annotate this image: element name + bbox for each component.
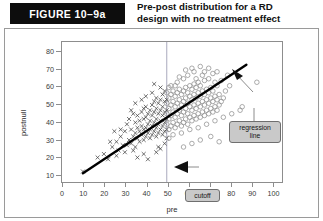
y-axis-label: postnull [19, 110, 28, 136]
data-point [206, 66, 211, 71]
data-point [215, 108, 220, 113]
data-point [181, 145, 186, 150]
x-tick-label: 40 [143, 189, 151, 198]
data-point [123, 129, 127, 133]
data-point [154, 107, 158, 111]
data-point [148, 136, 152, 140]
data-point [208, 134, 213, 139]
data-point [238, 108, 243, 113]
data-point [144, 94, 148, 98]
x-tick-label: 30 [121, 189, 129, 198]
data-point [198, 138, 203, 143]
data-point [215, 69, 220, 74]
y-tick-label: 30 [46, 135, 54, 144]
data-point [138, 129, 142, 133]
data-point [146, 157, 150, 161]
data-point [144, 126, 148, 130]
y-tick [56, 122, 62, 123]
data-point [227, 83, 232, 88]
data-point [127, 117, 131, 121]
data-point [135, 156, 139, 160]
regression-line-callout: regression line [229, 121, 281, 143]
figure-number-badge: FIGURE 10–9a [10, 3, 125, 24]
y-tick-label: 60 [46, 82, 54, 91]
y-tick-label: 10 [46, 171, 54, 180]
data-point [156, 131, 160, 135]
data-point [133, 145, 137, 149]
data-point [161, 105, 165, 109]
x-tick [273, 182, 274, 187]
x-tick-label: 100 [267, 189, 279, 198]
data-point [150, 103, 154, 107]
data-point [144, 115, 148, 119]
data-point [158, 86, 162, 90]
x-tick [62, 182, 63, 187]
x-tick-label: 20 [100, 189, 108, 198]
data-point [161, 133, 165, 137]
x-tick-label: 50 [164, 189, 172, 198]
scatter-plot-area: 10203040506070800102030405060708090100 [61, 41, 283, 183]
data-point [152, 110, 156, 114]
data-point [138, 119, 142, 123]
x-tick-label: 0 [60, 189, 64, 198]
data-point [112, 129, 116, 133]
series-x [81, 82, 169, 173]
cutoff-callout: cutoff [185, 189, 220, 202]
data-point [133, 131, 137, 135]
data-point [217, 92, 222, 97]
data-point [152, 129, 156, 133]
data-point [154, 117, 158, 121]
data-point [131, 149, 135, 153]
data-point [140, 98, 144, 102]
data-point [179, 131, 184, 136]
data-point [217, 139, 222, 144]
data-point [140, 124, 144, 128]
data-point [119, 135, 123, 139]
data-point [133, 101, 137, 105]
data-point [190, 66, 195, 71]
data-point [135, 126, 139, 130]
data-point [206, 76, 211, 81]
data-point [144, 135, 148, 139]
data-point [223, 89, 228, 94]
y-tick [56, 104, 62, 105]
x-tick [231, 182, 232, 187]
data-point [102, 152, 106, 156]
x-tick [189, 182, 190, 187]
x-tick [83, 182, 84, 187]
figure-container: FIGURE 10–9a Pre-post distribution for a… [0, 0, 323, 221]
data-point [129, 108, 133, 112]
plot-svg [62, 42, 282, 182]
x-tick [168, 182, 169, 187]
data-point [146, 112, 150, 116]
data-point [158, 128, 162, 132]
data-point [196, 125, 201, 130]
data-point [135, 114, 139, 118]
data-point [156, 112, 160, 116]
data-point [255, 80, 260, 85]
x-tick [147, 182, 148, 187]
y-tick [56, 51, 62, 52]
data-point [204, 122, 209, 127]
y-tick [56, 175, 62, 176]
data-point [150, 114, 154, 118]
data-point [194, 76, 199, 81]
data-point [161, 93, 165, 97]
y-tick [56, 69, 62, 70]
x-tick-label: 90 [248, 189, 256, 198]
data-point [129, 128, 133, 132]
y-tick [56, 157, 62, 158]
data-point [114, 140, 118, 144]
x-tick-label: 80 [227, 189, 235, 198]
data-point [146, 122, 150, 126]
data-point [154, 150, 158, 154]
data-point [188, 127, 193, 132]
x-tick-label: 10 [79, 189, 87, 198]
data-point [150, 133, 154, 137]
data-point [158, 98, 162, 102]
data-point [110, 145, 114, 149]
data-point [114, 154, 118, 158]
figure-title: Pre-post distribution for a RD design wi… [137, 1, 319, 24]
data-point [152, 82, 156, 86]
data-point [133, 121, 137, 125]
